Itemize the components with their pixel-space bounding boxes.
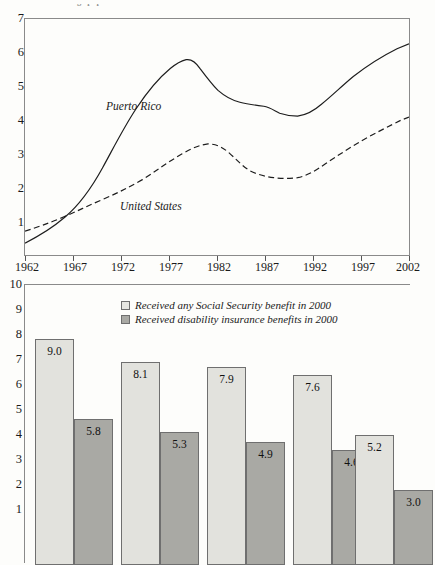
line-x-label-1992: 1992 bbox=[290, 260, 340, 275]
line-chart: 7 6 5 4 3 2 1 Puerto Rico United States bbox=[0, 10, 435, 270]
bar-value-light-1: 9.0 bbox=[36, 345, 73, 357]
bar-light-1: 9.0 bbox=[35, 339, 74, 565]
bar-dark-5: 3.0 bbox=[394, 490, 433, 565]
series-label-puerto-rico: Puerto Rico bbox=[106, 100, 161, 112]
line-x-label-2002: 2002 bbox=[383, 260, 433, 275]
bar-y-label-1: 1 bbox=[0, 503, 22, 516]
bar-value-dark-2: 5.3 bbox=[161, 438, 198, 450]
bar-y-label-6: 6 bbox=[0, 378, 22, 391]
series-united-states-path bbox=[25, 117, 409, 231]
bar-y-label-10: 10 bbox=[0, 278, 22, 291]
bar-value-dark-1: 5.8 bbox=[75, 425, 112, 437]
bar-y-label-4: 4 bbox=[0, 428, 22, 441]
line-x-label-1977: 1977 bbox=[146, 260, 196, 275]
line-y-label-7: 7 bbox=[0, 12, 24, 25]
legend-label-social-security: Received any Social Security benefit in … bbox=[135, 299, 331, 311]
bar-dark-1: 5.8 bbox=[74, 419, 113, 565]
bar-value-light-5: 5.2 bbox=[356, 441, 393, 453]
line-x-label-1972: 1972 bbox=[98, 260, 148, 275]
bar-dark-3: 4.9 bbox=[246, 442, 285, 565]
bar-value-light-3: 7.9 bbox=[208, 373, 245, 385]
top-caption: Percent of average population bbox=[16, 0, 128, 6]
line-y-label-6: 6 bbox=[0, 46, 24, 59]
line-x-label-1967: 1967 bbox=[50, 260, 100, 275]
line-y-label-1: 1 bbox=[0, 216, 24, 229]
line-plot-area bbox=[24, 18, 410, 256]
bar-y-label-2: 2 bbox=[0, 478, 22, 491]
bar-value-light-4: 7.6 bbox=[294, 381, 331, 393]
bar-y-label-3: 3 bbox=[0, 453, 22, 466]
bar-y-label-8: 8 bbox=[0, 328, 22, 341]
bar-light-4: 7.6 bbox=[293, 375, 332, 565]
legend-label-disability: Received disability insurance benefits i… bbox=[135, 313, 338, 325]
legend-item-disability: Received disability insurance benefits i… bbox=[121, 313, 338, 325]
bar-value-light-2: 8.1 bbox=[122, 368, 159, 380]
bar-legend: Received any Social Security benefit in … bbox=[121, 299, 338, 327]
bar-y-label-5: 5 bbox=[0, 403, 22, 416]
bar-y-label-9: 9 bbox=[0, 303, 22, 316]
line-series-svg bbox=[25, 19, 409, 255]
legend-item-social-security: Received any Social Security benefit in … bbox=[121, 299, 338, 311]
bar-dark-2: 5.3 bbox=[160, 432, 199, 565]
bar-light-2: 8.1 bbox=[121, 362, 160, 565]
line-x-label-1997: 1997 bbox=[338, 260, 388, 275]
bar-light-5: 5.2 bbox=[355, 435, 394, 565]
bar-value-dark-3: 4.9 bbox=[247, 448, 284, 460]
line-y-label-2: 2 bbox=[0, 182, 24, 195]
legend-swatch-light-icon bbox=[121, 301, 130, 310]
series-label-united-states: United States bbox=[120, 200, 182, 212]
line-y-label-4: 4 bbox=[0, 114, 24, 127]
line-y-label-5: 5 bbox=[0, 80, 24, 93]
bar-chart: 10 9 8 7 6 5 4 3 2 1 Received any Social… bbox=[0, 276, 435, 563]
legend-swatch-dark-icon bbox=[121, 315, 130, 324]
line-y-label-3: 3 bbox=[0, 148, 24, 161]
bar-plot-area: Received any Social Security benefit in … bbox=[24, 284, 410, 563]
series-puerto-rico-path bbox=[25, 44, 409, 243]
bar-light-3: 7.9 bbox=[207, 367, 246, 565]
bar-y-label-7: 7 bbox=[0, 353, 22, 366]
line-x-label-1962: 1962 bbox=[2, 260, 52, 275]
bar-value-dark-5: 3.0 bbox=[395, 496, 432, 508]
line-x-label-1987: 1987 bbox=[242, 260, 292, 275]
line-x-label-1982: 1982 bbox=[194, 260, 244, 275]
